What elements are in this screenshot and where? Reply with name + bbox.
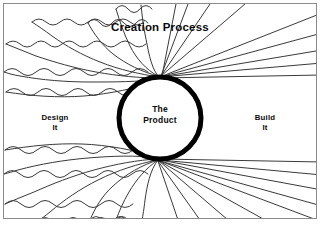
rays-upper-right (160, 4, 322, 78)
creation-process-diagram: Creation Process The Product Design It B… (0, 0, 322, 224)
diagram-title: Creation Process (92, 20, 228, 34)
design-it-label: Design It (22, 113, 88, 132)
build-it-label: Build It (232, 113, 298, 132)
product-label: The Product (126, 104, 194, 125)
rays-lower-right (158, 159, 322, 222)
waves-lower-left-detail (4, 147, 149, 225)
waves-lower-left (4, 144, 158, 221)
